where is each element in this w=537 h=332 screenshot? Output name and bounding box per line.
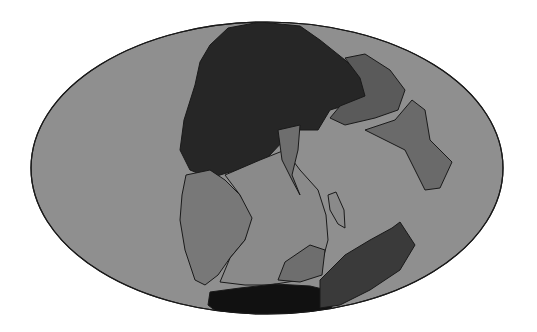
- world-map: [0, 0, 537, 332]
- landmass-antarctica: [208, 284, 335, 322]
